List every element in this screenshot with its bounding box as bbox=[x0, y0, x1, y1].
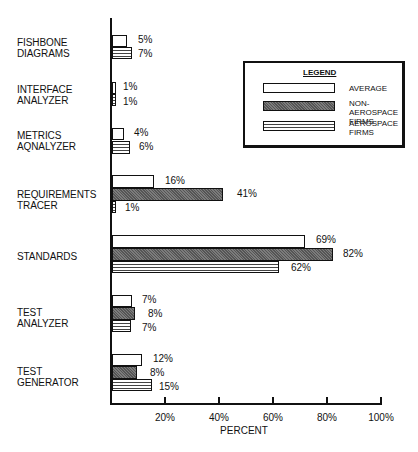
bar-test-generator-non-aerospace bbox=[112, 366, 137, 379]
value-label: 16% bbox=[165, 175, 185, 186]
bar-test-generator-aerospace bbox=[112, 379, 152, 391]
bar-metrics-aerospace bbox=[112, 141, 130, 154]
value-label: 12% bbox=[153, 353, 173, 364]
bar-standards-aerospace bbox=[112, 261, 279, 273]
x-axis-title: PERCENT bbox=[220, 425, 268, 436]
category-label-requirements: REQUIREMENTS TRACER bbox=[17, 189, 96, 211]
category-label-test-analyzer: TEST ANALYZER bbox=[17, 307, 68, 329]
legend-label-average: AVERAGE bbox=[349, 84, 387, 93]
value-label: 15% bbox=[159, 381, 179, 392]
legend-swatch-non-aerospace bbox=[263, 101, 335, 111]
value-label: 69% bbox=[316, 234, 336, 245]
value-label: 1% bbox=[123, 81, 137, 92]
bar-standards-average bbox=[112, 235, 305, 248]
x-tick-label: 40% bbox=[209, 412, 229, 423]
value-label: 4% bbox=[134, 127, 148, 138]
category-label-metrics: METRICS AQNALYZER bbox=[17, 130, 76, 152]
legend-title: LEGEND bbox=[303, 68, 336, 77]
x-tick-100 bbox=[380, 397, 382, 405]
x-tick-label: 80% bbox=[317, 412, 337, 423]
category-label-standards: STANDARDS bbox=[17, 251, 77, 262]
x-tick-60 bbox=[272, 397, 274, 405]
x-tick-40 bbox=[218, 397, 220, 405]
bar-test-analyzer-non-aerospace bbox=[112, 307, 135, 320]
value-label: 41% bbox=[237, 188, 257, 199]
x-tick-label: 100% bbox=[368, 412, 394, 423]
x-tick-80 bbox=[326, 397, 328, 405]
value-label: 82% bbox=[343, 248, 363, 259]
x-axis-line bbox=[110, 403, 382, 405]
x-tick-label: 20% bbox=[155, 412, 175, 423]
value-label: 5% bbox=[138, 34, 152, 45]
value-label: 1% bbox=[123, 96, 137, 107]
legend-swatch-average bbox=[263, 83, 335, 93]
legend: LEGEND AVERAGE NON-AEROSPACE FIRMS AEROS… bbox=[243, 61, 405, 148]
value-label: 7% bbox=[138, 48, 152, 59]
value-label: 1% bbox=[125, 202, 139, 213]
value-label: 8% bbox=[150, 367, 164, 378]
category-label-fishbone: FISHBONE DIAGRAMS bbox=[17, 37, 70, 59]
legend-label-aerospace: AEROSPACE FIRMS bbox=[349, 119, 398, 137]
value-label: 62% bbox=[291, 262, 311, 273]
x-tick-20 bbox=[164, 397, 166, 405]
legend-swatch-aerospace bbox=[263, 121, 335, 131]
bar-metrics-average bbox=[112, 128, 124, 140]
bar-test-analyzer-average bbox=[112, 295, 132, 307]
value-label: 6% bbox=[139, 141, 153, 152]
bar-requirements-non-aerospace bbox=[112, 188, 223, 201]
bar-fishbone-aerospace bbox=[112, 47, 132, 59]
bar-fishbone-average bbox=[112, 35, 127, 47]
bar-requirements-aerospace bbox=[112, 201, 116, 213]
category-label-test-generator: TEST GENERATOR bbox=[17, 366, 79, 388]
bar-interface-aerospace bbox=[112, 94, 116, 106]
value-label: 7% bbox=[142, 322, 156, 333]
x-tick-label: 60% bbox=[263, 412, 283, 423]
category-label-interface: INTERFACE ANALYZER bbox=[17, 84, 72, 106]
bar-test-generator-average bbox=[112, 354, 142, 366]
value-label: 8% bbox=[148, 308, 162, 319]
bar-standards-non-aerospace bbox=[112, 248, 333, 261]
bar-test-analyzer-aerospace bbox=[112, 320, 131, 332]
bar-requirements-average bbox=[112, 175, 154, 188]
value-label: 7% bbox=[142, 294, 156, 305]
bar-interface-average bbox=[112, 82, 116, 94]
